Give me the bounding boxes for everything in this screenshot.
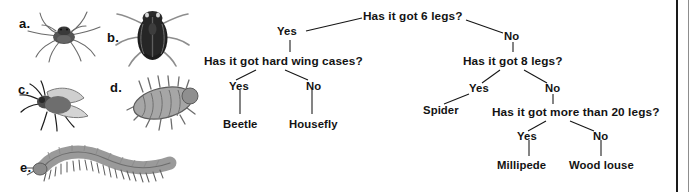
page-border-rule [676,0,678,192]
tree-leaf-millipede: Millipede [497,160,546,171]
figure-canvas: a. [0,0,691,192]
tree-question-more-than-20-legs: Has it got more than 20 legs? [492,107,659,119]
tree-branch-8legs-yes: Yes [469,83,489,94]
tree-question-8-legs: Has it got 8 legs? [463,56,562,68]
tree-leaf-wood-louse: Wood louse [569,160,634,171]
tree-branch-20legs-yes: Yes [517,131,537,142]
tree-branch-6legs-no: No [504,31,519,42]
tree-question-hard-wing-cases: Has it got hard wing cases? [204,56,363,68]
tree-leaf-spider: Spider [423,105,459,116]
tree-question-6-legs: Has it got 6 legs? [363,11,462,23]
tree-branch-6legs-yes: Yes [277,26,297,37]
tree-branch-wingcases-no: No [306,81,321,92]
page-border-rule-thin [688,0,689,192]
tree-leaf-beetle: Beetle [223,119,258,130]
tree-branch-20legs-no: No [593,131,608,142]
tree-branch-wingcases-yes: Yes [229,81,249,92]
tree-branch-8legs-no: No [545,83,560,94]
tree-leaf-housefly: Housefly [289,119,338,130]
